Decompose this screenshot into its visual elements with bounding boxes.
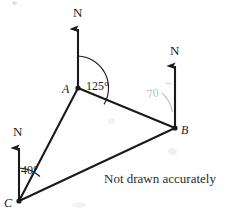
vertex-dot-A: [75, 85, 80, 90]
vertex-label-C: C: [4, 197, 12, 209]
side-AC: [19, 88, 78, 201]
vertex-dot-C: [16, 198, 21, 203]
angle-arc-B-pencil: [162, 93, 173, 112]
pencil-stray-mark: [166, 83, 171, 85]
angle-label-125: 125°: [86, 80, 109, 92]
bearings-diagram: N N N A B C 125° 40° 70 Not drawn accura…: [0, 0, 228, 212]
vertex-dot-B: [172, 125, 177, 130]
vertex-label-B: B: [181, 124, 188, 136]
angle-label-40: 40°: [21, 164, 38, 176]
north-label-B: N: [170, 44, 179, 57]
north-label-A: N: [73, 6, 82, 19]
angle-label-70-pencil: 70: [146, 86, 160, 100]
vertex-label-A: A: [62, 83, 69, 95]
not-drawn-accurately-note: Not drawn accurately: [104, 172, 216, 185]
side-CB: [19, 128, 175, 201]
north-label-C: N: [13, 125, 22, 138]
side-AB: [78, 88, 175, 128]
